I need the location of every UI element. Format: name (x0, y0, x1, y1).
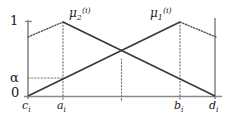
x-axis-tick-b-sub: i (181, 105, 183, 114)
membership-plot-svg (0, 0, 231, 120)
mu1-dotted-shoulder (180, 22, 216, 37)
mu2-label-sup: (i) (82, 6, 91, 15)
x-axis-tick-d-sub: i (216, 105, 218, 114)
mu1-label-sup: (i) (163, 6, 172, 15)
y-axis-label-alpha: α (10, 71, 19, 84)
x-axis-tick-b-base: b (174, 99, 181, 112)
x-axis-tick-d: di (209, 100, 218, 114)
x-axis-tick-d-base: d (209, 99, 216, 112)
x-axis-tick-a-sub: i (64, 105, 66, 114)
y-axis-label-one: 1 (10, 14, 18, 27)
mu2-label-base: μ (69, 6, 77, 20)
figure-container: 1 α 0 ci ai bi di μ2(i) μ1(i) (0, 0, 231, 120)
mu1-solid-curve (28, 22, 180, 96)
mu2-curve-label: μ2(i) (69, 7, 91, 22)
x-axis-tick-c: ci (22, 100, 31, 114)
y-axis-label-zero: 0 (11, 86, 19, 99)
x-axis-tick-a: ai (57, 100, 66, 114)
x-axis-tick-c-sub: i (28, 105, 30, 114)
x-axis-tick-b: bi (174, 100, 183, 114)
mu1-curve-label: μ1(i) (150, 7, 172, 22)
mu1-label-base: μ (150, 6, 158, 20)
mu2-solid-curve (63, 22, 215, 96)
mu2-dotted-shoulder (28, 22, 63, 37)
